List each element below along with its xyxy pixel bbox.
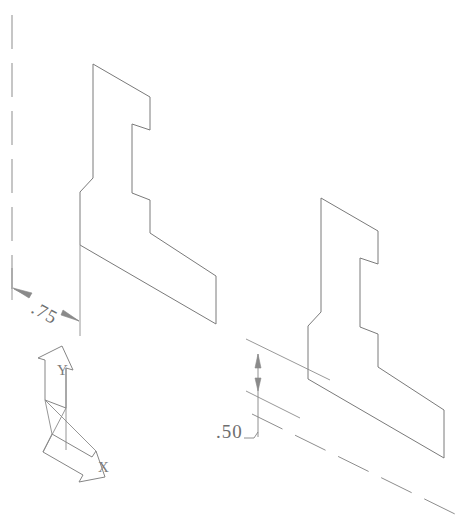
centerline-diagonal-bottom [252,414,459,516]
profile-part-left-outline[interactable] [80,64,216,324]
dimension-075-arrowhead-left [13,288,32,298]
dimension-075-arrowhead-right [61,310,79,321]
technical-drawing-svg: .75 .50 [0,0,460,526]
drawing-canvas: .75 .50 [0,0,460,526]
dimension-050-group[interactable]: .50 [216,339,330,442]
dimension-075-text: .75 [28,297,61,328]
dimension-050-arrowhead-top [255,354,261,368]
axis-y-label: Y [57,362,68,378]
isometric-axis-triad[interactable]: Y X [38,346,109,482]
dimension-050-extension-lower [246,391,300,418]
profile-part-left[interactable] [80,64,216,324]
dimension-050-arrowhead-bottom [255,378,261,391]
dimension-075-group[interactable]: .75 [12,245,80,336]
profile-part-right[interactable] [308,198,444,458]
dimension-050-leader [244,432,258,438]
axis-frame-line-1 [45,400,52,434]
axis-frame-line-2 [43,408,66,452]
axis-frame-line-3 [45,400,96,451]
dimension-050-text: .50 [216,421,243,442]
profile-part-right-outline[interactable] [308,198,444,458]
axis-x-arrow[interactable] [43,434,105,482]
axis-x-label: X [98,459,109,475]
